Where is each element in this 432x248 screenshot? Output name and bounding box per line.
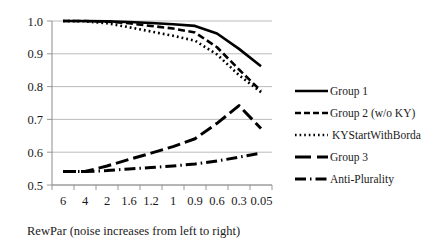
x-tick-label: 6 — [60, 194, 66, 208]
legend-item-label: Group 1 — [330, 85, 368, 98]
x-tick-label: 1.6 — [121, 194, 137, 208]
x-axis-title: RewPar (noise increases from left to rig… — [27, 224, 240, 238]
legend-item-label: KYStartWithBorda — [332, 129, 421, 141]
y-tick-label: 0.5 — [27, 179, 43, 193]
legend-item-label: Group 3 — [330, 151, 368, 164]
legend-item-label: Anti-Plurality — [330, 173, 394, 186]
y-tick-label: 0.7 — [27, 113, 43, 127]
x-tick-label: 1 — [170, 194, 176, 208]
y-tick-label: 0.6 — [27, 146, 43, 160]
chart-figure: 1.0 0.9 0.8 0.7 0.6 0.5 6 4 2 1.6 — [0, 0, 432, 248]
x-tick-label: 2 — [104, 194, 110, 208]
x-tick-label: 4 — [82, 194, 89, 208]
x-tick-label: 0.9 — [187, 194, 203, 208]
y-tick-label: 1.0 — [27, 15, 43, 29]
x-tick-label: 0.3 — [231, 194, 247, 208]
x-tick-label: 0.6 — [209, 194, 225, 208]
x-tick-label: 1.2 — [143, 194, 159, 208]
legend-item-label: Group 2 (w/o KY) — [330, 107, 415, 120]
line-chart-svg: 1.0 0.9 0.8 0.7 0.6 0.5 6 4 2 1.6 — [0, 0, 432, 248]
y-tick-label: 0.8 — [27, 80, 43, 94]
x-tick-label: 0.05 — [251, 194, 273, 208]
y-tick-label: 0.9 — [27, 47, 43, 61]
